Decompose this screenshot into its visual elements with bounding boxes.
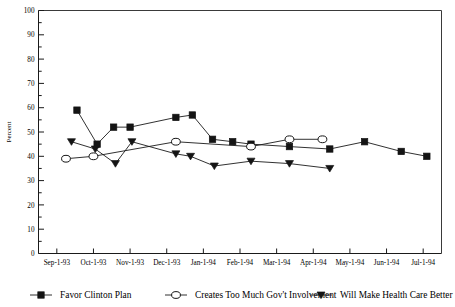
legend-item-1: Favor Clinton Plan [30,290,132,300]
legend-label: Favor Clinton Plan [60,290,132,300]
data-point [187,153,195,160]
data-point [398,148,404,154]
x-tick-label: Dec-1-93 [153,259,181,267]
data-point [327,146,333,152]
y-tick-label: 0 [31,250,35,258]
line-chart: 0102030405060708090100 Sep-1-93Oct-1-93N… [0,0,455,307]
data-point [110,124,116,130]
data-point [171,138,180,145]
y-tick-label: 60 [27,104,35,112]
chart-legend: Favor Clinton PlanCreates Too Much Gov't… [30,290,453,300]
y-tick-label: 50 [27,129,35,137]
data-point [286,143,292,149]
data-point [189,112,195,118]
data-series [62,107,430,172]
x-axis-tick-labels: Sep-1-93Oct-1-93Nov-1-93Dec-1-93Jan-1-94… [44,259,436,267]
legend-marker [172,292,181,299]
x-tick-label: Mar-1-94 [263,259,291,267]
y-tick-label: 40 [27,153,35,161]
x-tick-label: Feb-1-94 [227,259,254,267]
data-point [127,124,133,130]
legend-label: Will Make Health Care Better [340,290,453,300]
data-point [210,163,218,170]
data-point [424,153,430,159]
x-tick-label: Sep-1-93 [44,259,71,267]
data-point [89,153,98,160]
x-tick-label: Oct-1-93 [80,259,106,267]
chart-container: 0102030405060708090100 Sep-1-93Oct-1-93N… [0,0,455,307]
y-tick-label: 70 [27,80,35,88]
data-point [74,107,80,113]
plot-frame [39,11,442,254]
series-1 [74,107,430,160]
data-point [318,136,327,143]
y-tick-label: 100 [24,7,35,15]
data-point [247,143,256,150]
data-point [229,139,235,145]
y-tick-label: 90 [27,31,35,39]
data-point [173,114,179,120]
x-tick-label: May-1-94 [336,259,365,267]
data-point [62,155,71,162]
legend-marker [38,292,44,298]
data-point [326,165,334,172]
data-point [128,139,136,146]
y-tick-label: 20 [27,202,35,210]
y-tick-label: 30 [27,177,35,185]
y-tick-label: 80 [27,56,35,64]
data-point [91,146,99,153]
y-axis-title-text: Percent [5,121,13,142]
data-point [285,136,294,143]
axis-ticks [39,11,424,254]
x-tick-label: Jul-1-94 [411,259,435,267]
data-point [111,161,119,168]
data-point [361,139,367,145]
x-tick-label: Nov-1-93 [116,259,144,267]
x-tick-label: Jan-1-94 [191,259,217,267]
y-tick-label: 10 [27,226,35,234]
data-point [209,136,215,142]
x-tick-label: Apr-1-94 [300,259,327,267]
x-tick-label: Jun-1-94 [374,259,400,267]
y-axis-tick-labels: 0102030405060708090100 [24,7,35,258]
y-axis-title: Percent [5,121,13,142]
data-point [67,139,75,146]
